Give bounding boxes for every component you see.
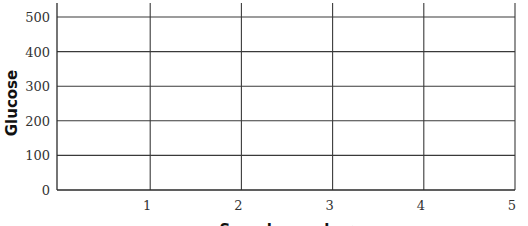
y-tick-label: 500: [25, 10, 50, 25]
x-tick-label: 1: [143, 198, 151, 213]
x-tick-label: 3: [325, 198, 333, 213]
y-tick-label: 400: [25, 45, 50, 60]
y-tick-label: 100: [25, 148, 50, 163]
x-axis-label: Sample number: [219, 221, 353, 226]
horizontal-gridlines: [57, 17, 515, 155]
y-tick-label: 0: [42, 183, 50, 198]
x-tick-label: 5: [508, 198, 516, 213]
x-tick-label: 2: [234, 198, 242, 213]
y-axis-label: Glucose: [3, 70, 21, 136]
x-tick-labels: 12345: [143, 198, 516, 213]
x-tick-label: 4: [417, 198, 425, 213]
vertical-gridlines: [150, 3, 515, 190]
chart: 0100200300400500 12345 Glucose Sample nu…: [0, 0, 528, 226]
y-tick-label: 200: [25, 114, 50, 129]
y-tick-labels: 0100200300400500: [25, 10, 50, 198]
y-tick-label: 300: [25, 79, 50, 94]
